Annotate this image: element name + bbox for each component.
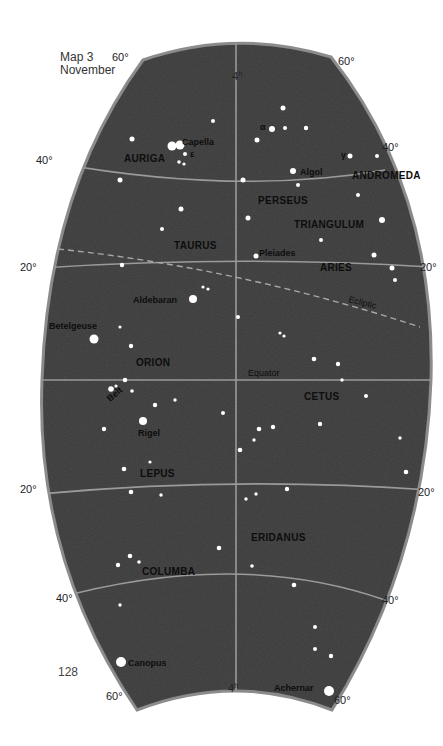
star-label: Rigel	[138, 428, 160, 438]
star	[336, 362, 340, 366]
star-label: Canopus	[128, 658, 167, 668]
constellation-label: ERIDANUS	[251, 532, 306, 543]
star-label: Aldebaran	[133, 295, 177, 305]
star	[254, 492, 257, 495]
star	[120, 263, 124, 267]
greek-letter-label: γ	[341, 150, 346, 160]
greek-letter-label: α	[260, 122, 266, 132]
star	[236, 315, 240, 319]
star	[283, 126, 287, 130]
star-label: Pleiades	[259, 248, 296, 258]
declination-label: 20°	[20, 483, 37, 495]
star	[173, 398, 176, 401]
star	[372, 253, 377, 258]
star	[356, 193, 360, 197]
sky-region	[0, 0, 443, 746]
star	[255, 138, 260, 143]
star	[244, 497, 247, 500]
star-aldebaran	[189, 295, 197, 303]
constellation-label: AURIGA	[124, 153, 165, 164]
star	[278, 331, 281, 334]
star	[271, 425, 275, 429]
star-label: Achernar	[274, 683, 314, 693]
star	[241, 178, 246, 183]
declination-label: 60°	[334, 694, 351, 706]
star	[252, 438, 255, 441]
star-rigel	[139, 417, 147, 425]
constellation-label: TRIANGULUM	[294, 219, 364, 230]
star	[116, 563, 120, 567]
star	[217, 546, 222, 551]
star	[348, 154, 353, 159]
declination-label: 20°	[418, 486, 435, 498]
star-betelgeuse	[90, 335, 99, 344]
greek-letter-label: ε	[190, 149, 195, 159]
star	[182, 162, 185, 165]
constellation-label: ORION	[136, 357, 170, 368]
star	[282, 334, 285, 337]
star	[379, 217, 385, 223]
star	[128, 554, 133, 559]
constellation-label: LEPUS	[140, 468, 175, 479]
star	[318, 422, 322, 426]
declination-label: 40°	[36, 154, 53, 166]
declination-label: 40°	[382, 141, 399, 153]
star	[375, 154, 379, 158]
star-algol	[290, 168, 296, 174]
star	[123, 378, 128, 383]
star	[129, 344, 133, 348]
star	[296, 183, 300, 187]
star	[319, 238, 323, 242]
star	[102, 427, 106, 431]
page-number: 128	[58, 665, 78, 679]
star	[404, 470, 409, 475]
star	[292, 583, 297, 588]
star	[168, 142, 177, 151]
star	[130, 137, 135, 142]
star-label: Algol	[300, 167, 323, 177]
declination-label: 20°	[20, 261, 37, 273]
star	[285, 487, 289, 491]
star	[250, 564, 254, 568]
constellation-label: ANDROMEDA	[352, 170, 421, 181]
declination-label: 40°	[382, 594, 399, 606]
star	[281, 106, 286, 111]
constellation-label: TAURUS	[174, 240, 217, 251]
constellation-label: COLUMBA	[142, 566, 195, 577]
declination-label: 60°	[338, 55, 355, 67]
star	[246, 216, 251, 221]
equator-label: Equator	[248, 368, 280, 378]
star	[137, 560, 141, 564]
star	[160, 227, 164, 231]
star-achernar	[324, 686, 334, 696]
star-pleiades	[254, 254, 259, 259]
star	[179, 207, 184, 212]
star	[329, 654, 333, 658]
star	[130, 389, 134, 393]
star-chart: CapellaAlgolPleiadesAldebaranBetelgeuseR…	[0, 0, 443, 746]
star	[118, 325, 121, 328]
star	[211, 119, 215, 123]
star	[129, 490, 134, 495]
star	[304, 126, 308, 130]
declination-label: 60°	[112, 51, 129, 63]
star-label: Capella	[182, 137, 215, 147]
star	[148, 460, 151, 463]
star	[313, 625, 317, 629]
constellation-label: ARIES	[320, 262, 352, 273]
star	[312, 357, 317, 362]
star-label: Betelgeuse	[49, 321, 97, 331]
star	[238, 448, 243, 453]
star	[398, 436, 401, 439]
star	[390, 266, 395, 271]
star	[201, 285, 204, 288]
star-canopus	[116, 657, 126, 667]
star	[221, 411, 225, 415]
star	[183, 152, 187, 156]
constellation-label: PERSEUS	[258, 195, 308, 206]
star	[269, 126, 275, 132]
star	[153, 403, 157, 407]
star	[118, 178, 123, 183]
star	[313, 647, 317, 651]
star	[122, 467, 127, 472]
